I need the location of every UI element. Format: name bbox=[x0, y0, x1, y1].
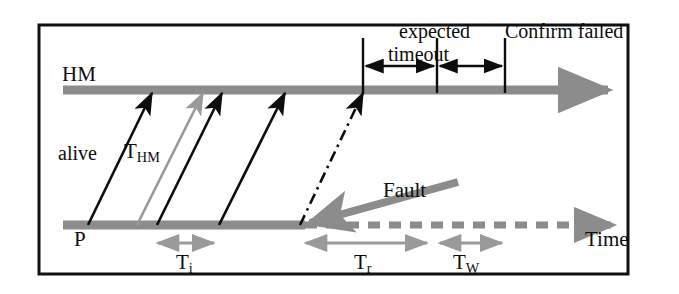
heartbeat-arrow-4 bbox=[219, 93, 285, 225]
t-hm-subscript: HM bbox=[137, 149, 160, 165]
interval-ti-subscript: i bbox=[189, 260, 193, 276]
heartbeat-arrow-5-missing bbox=[300, 93, 363, 225]
time-axis-label: Time bbox=[585, 229, 629, 250]
p-lifeline-label: P bbox=[74, 229, 86, 250]
heartbeat-arrow-3 bbox=[157, 93, 222, 225]
interval-ti-base: T bbox=[176, 250, 189, 274]
timeout-label: timeout bbox=[388, 44, 449, 64]
t-hm-base: T bbox=[124, 139, 137, 163]
timing-diagram: HM P alive THM expected Confirm failed t… bbox=[0, 0, 679, 294]
interval-tw-base: T bbox=[453, 250, 466, 274]
t-hm-label: THM bbox=[124, 141, 160, 162]
fault-label: Fault bbox=[383, 180, 426, 201]
interval-tr-subscript: r bbox=[367, 260, 372, 276]
hm-lifeline-label: HM bbox=[62, 64, 96, 85]
alive-label: alive bbox=[58, 143, 97, 163]
diagram-canvas bbox=[0, 0, 679, 294]
interval-label-ti: Ti bbox=[176, 252, 193, 273]
expected-label: expected bbox=[399, 21, 470, 41]
confirm-failed-label: Confirm failed bbox=[505, 21, 623, 41]
interval-tr-base: T bbox=[354, 250, 367, 274]
interval-tw-subscript: W bbox=[466, 260, 479, 276]
interval-label-tr: Tr bbox=[354, 252, 372, 273]
interval-label-tw: TW bbox=[453, 252, 479, 273]
